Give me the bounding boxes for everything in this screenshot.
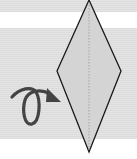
origami-diagram [0,0,137,159]
turn-over-arrow-icon [12,88,61,124]
